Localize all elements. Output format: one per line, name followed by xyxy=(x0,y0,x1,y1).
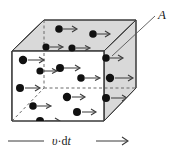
length-label-time: t xyxy=(68,134,72,148)
particle-dot xyxy=(29,102,37,110)
particle-dot xyxy=(102,54,110,62)
particle-dot xyxy=(106,74,114,82)
particle-flux-figure: A υ·dt xyxy=(0,0,176,154)
particle-dot xyxy=(63,93,71,101)
particle-dot xyxy=(55,25,63,33)
particle-dot xyxy=(36,67,43,74)
length-annotation-group: υ·dt xyxy=(8,134,128,148)
particle-dot xyxy=(16,84,24,92)
particle-dot xyxy=(56,64,64,72)
particle-dot xyxy=(68,44,75,51)
particle-dot xyxy=(102,94,110,102)
particle-dot xyxy=(89,30,97,38)
particle-dot xyxy=(73,108,81,116)
particle-dot xyxy=(19,56,27,64)
particle-dot xyxy=(77,74,85,82)
figure-canvas: A υ·dt xyxy=(0,0,176,154)
length-label: υ·dt xyxy=(52,134,72,148)
area-label: A xyxy=(157,7,166,22)
particle-dot xyxy=(36,117,44,125)
particle-dot xyxy=(42,43,49,50)
